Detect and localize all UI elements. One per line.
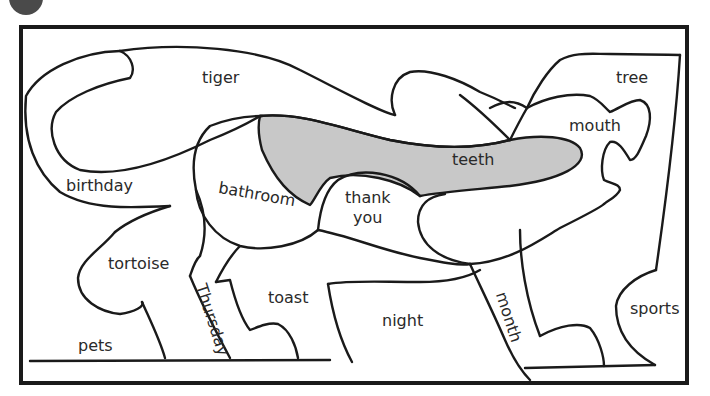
piece-label-thank-you: thank you — [345, 188, 391, 228]
piece-label-teeth: teeth — [452, 152, 494, 168]
tiger-word-puzzle: tiger tree mouth teeth birthday bathroom… — [0, 0, 710, 396]
piece-label-mouth: mouth — [569, 118, 621, 134]
thank-you-line2: you — [353, 208, 382, 227]
piece-label-sports: sports — [630, 301, 679, 317]
thank-you-line1: thank — [345, 188, 391, 207]
piece-label-night: night — [382, 313, 423, 329]
number-badge-icon — [9, 0, 43, 15]
piece-label-pets: pets — [78, 338, 113, 354]
piece-label-tree: tree — [616, 70, 648, 86]
piece-label-tiger: tiger — [202, 70, 239, 86]
piece-label-tortoise: tortoise — [108, 256, 169, 272]
piece-label-toast: toast — [268, 290, 308, 306]
piece-teeth — [259, 115, 582, 205]
piece-label-birthday: birthday — [66, 178, 133, 194]
